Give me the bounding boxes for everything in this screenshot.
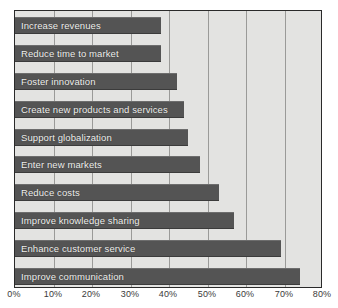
- bar-row: Reduce time to market: [15, 45, 322, 62]
- bar-category-label: Enter new markets: [21, 156, 102, 173]
- bar-row: Reduce costs: [15, 184, 322, 201]
- bar-category-label: Reduce costs: [21, 184, 80, 201]
- bar-category-label: Foster innovation: [21, 73, 96, 90]
- bar-row: Foster innovation: [15, 73, 322, 90]
- bar-category-label: Support globalization: [21, 129, 112, 146]
- bar-row: Create new products and services: [15, 101, 322, 118]
- x-tick-label: 80%: [313, 289, 332, 299]
- x-axis: 0%10%20%30%40%50%60%70%80%: [14, 289, 322, 305]
- bar-category-label: Increase revenues: [21, 17, 101, 34]
- bar-category-label: Improve communication: [21, 268, 124, 285]
- x-tick-label: 0%: [7, 289, 20, 299]
- bar-chart: Increase revenuesReduce time to marketFo…: [0, 0, 338, 308]
- x-tick-label: 10%: [44, 289, 63, 299]
- x-tick-label: 30%: [121, 289, 140, 299]
- bar-row: Enter new markets: [15, 156, 322, 173]
- bar-row: Increase revenues: [15, 17, 322, 34]
- x-tick-label: 20%: [82, 289, 101, 299]
- bar-category-label: Improve knowledge sharing: [21, 212, 140, 229]
- x-tick-label: 50%: [198, 289, 217, 299]
- bar-category-label: Create new products and services: [21, 101, 168, 118]
- bar-category-label: Enhance customer service: [21, 240, 135, 257]
- bar-category-label: Reduce time to market: [21, 45, 119, 62]
- bar-row: Improve communication: [15, 268, 322, 285]
- plot-area: Increase revenuesReduce time to marketFo…: [14, 10, 322, 288]
- bar-row: Support globalization: [15, 129, 322, 146]
- x-tick-label: 70%: [275, 289, 294, 299]
- x-tick-label: 40%: [159, 289, 178, 299]
- x-tick-label: 60%: [236, 289, 255, 299]
- bar-row: Enhance customer service: [15, 240, 322, 257]
- bar-row: Improve knowledge sharing: [15, 212, 322, 229]
